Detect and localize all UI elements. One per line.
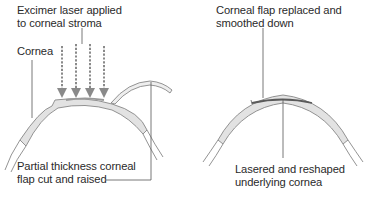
cornea-label: Cornea [17, 45, 53, 58]
laser-beam-arrows [62, 44, 104, 93]
flap-label-line1: Partial thickness corneal [17, 160, 136, 173]
right-sclera-lines [203, 140, 223, 166]
left-cornea [20, 99, 147, 146]
reshaped-label: Lasered and reshaped underlying cornea [235, 163, 345, 188]
laser-label-line1: Excimer laser applied [17, 4, 122, 17]
reshaped-line2: underlying cornea [235, 176, 345, 189]
raised-corneal-flap [111, 81, 172, 104]
flap-replaced-line2: smoothed down [216, 17, 342, 30]
left-sclera-lines [143, 130, 163, 160]
laser-label-line2: to corneal stroma [17, 17, 122, 30]
flap-replaced-label: Corneal flap replaced and smoothed down [216, 4, 342, 29]
right-sclera-lines [343, 140, 363, 166]
flap-replaced-line1: Corneal flap replaced and [216, 4, 342, 17]
flap-label-line2: flap cut and raised [17, 173, 136, 186]
laser-label: Excimer laser applied to corneal stroma [17, 4, 122, 29]
flap-label: Partial thickness corneal flap cut and r… [17, 160, 136, 185]
flap-edge [251, 100, 252, 104]
reshaped-line1: Lasered and reshaped [235, 163, 345, 176]
cornea-label-text: Cornea [17, 45, 53, 58]
right-panel-illustration [203, 28, 363, 166]
